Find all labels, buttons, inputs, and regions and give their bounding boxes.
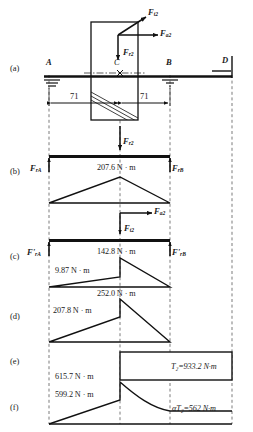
- diagram-f-tail-value: αT₂=562 N·m: [172, 404, 216, 413]
- figure-canvas: (a) (b) (c) (d) (e) (f): [0, 0, 253, 432]
- diagram-f-moment-curve: [49, 382, 232, 424]
- diagram-f-graph: [0, 0, 253, 432]
- diagram-f-peak-value: 615.7 N · m: [55, 372, 93, 381]
- diagram-f-step-value: 599.2 N · m: [55, 390, 93, 399]
